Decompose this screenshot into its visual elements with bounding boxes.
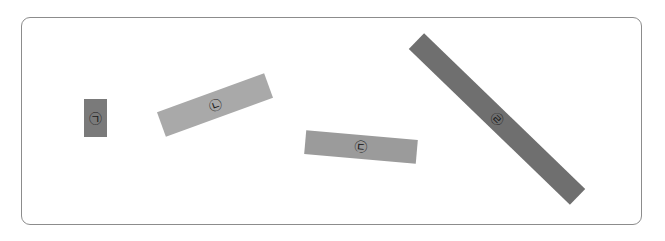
diagram-frame: [21, 17, 642, 225]
label-rieul: ㉣: [488, 110, 506, 128]
label-giyeok: ㉠: [89, 112, 102, 125]
label-digeut: ㉢: [354, 140, 368, 154]
label-nieun: ㉡: [207, 97, 224, 114]
bar-giyeok: ㉠: [84, 99, 107, 137]
